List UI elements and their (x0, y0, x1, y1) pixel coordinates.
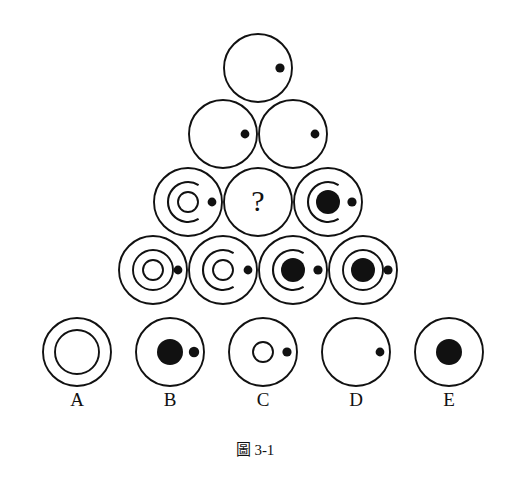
matrix-cell-r4c3-satellite-dot (313, 265, 322, 274)
matrix-cell-r3c1-satellite-dot (208, 198, 217, 207)
matrix-cell-r4c2[interactable] (189, 236, 257, 304)
matrix-cell-r3c2[interactable]: ? (224, 168, 292, 236)
matrix-cell-r3c3-satellite-dot (347, 197, 356, 206)
question-mark[interactable]: ? (251, 184, 264, 217)
option-label-d: D (349, 389, 363, 410)
option-b[interactable]: B (136, 318, 204, 410)
matrix-row-2 (189, 100, 327, 168)
matrix-cell-r4c4[interactable] (329, 236, 397, 304)
option-c[interactable]: C (229, 318, 297, 410)
matrix-cell-r3c1[interactable] (154, 168, 222, 236)
matrix-cell-r4c1[interactable] (119, 236, 187, 304)
option-d-shape-satellite-dot (376, 348, 385, 357)
answer-options: ABCDE (43, 318, 483, 410)
matrix-cell-r3c3-solid-nucleus (316, 190, 340, 214)
matrix-cell-r4c2-hollow-nucleus (213, 260, 233, 280)
matrix-row-1 (224, 34, 292, 102)
matrix-cell-r4c1-satellite-dot (174, 266, 183, 275)
matrix-cell-r4c2-satellite-dot (244, 266, 253, 275)
matrix-cell-r1c1[interactable] (224, 34, 292, 102)
option-c-shape-satellite-dot (282, 347, 291, 356)
matrix-cell-r4c4-satellite-dot (383, 265, 392, 274)
option-label-b: B (164, 389, 177, 410)
option-label-c: C (257, 389, 270, 410)
option-a-shape[interactable] (43, 318, 111, 386)
matrix-cell-r2c1[interactable] (189, 100, 257, 168)
figure-container: ? ABCDE 圖 3-1 (0, 0, 510, 484)
option-label-a: A (70, 389, 84, 410)
figure-caption: 圖 3-1 (236, 442, 275, 458)
matrix-cell-r4c1-hollow-nucleus (143, 260, 163, 280)
option-e-shape-solid-nucleus (436, 339, 462, 365)
matrix-cell-r3c1-hollow-nucleus (178, 192, 198, 212)
puzzle-figure: ? ABCDE 圖 3-1 (0, 0, 510, 484)
matrix-cell-r4c4-solid-nucleus (351, 258, 375, 282)
option-a[interactable]: A (43, 318, 111, 410)
matrix-cell-r2c1-satellite-dot (241, 130, 250, 139)
option-b-shape-satellite-dot (189, 347, 199, 357)
option-a-shape-outer-circle (43, 318, 111, 386)
matrix-cell-r4c3-solid-nucleus (281, 258, 305, 282)
matrix-cell-r4c3[interactable] (259, 236, 327, 304)
option-d-shape[interactable] (322, 318, 390, 386)
option-c-shape-hollow-nucleus (253, 342, 273, 362)
matrix-cell-r2c2-satellite-dot (311, 130, 320, 139)
matrix-pyramid: ? (119, 34, 397, 304)
option-b-shape[interactable] (136, 318, 204, 386)
option-b-shape-solid-nucleus (157, 339, 183, 365)
matrix-row-4 (119, 236, 397, 304)
matrix-row-3: ? (154, 168, 362, 236)
option-d[interactable]: D (322, 318, 390, 410)
option-e-shape[interactable] (415, 318, 483, 386)
option-e[interactable]: E (415, 318, 483, 410)
option-c-shape[interactable] (229, 318, 297, 386)
matrix-cell-r2c2[interactable] (259, 100, 327, 168)
option-label-e: E (443, 389, 455, 410)
matrix-cell-r1c1-satellite-dot (275, 63, 284, 72)
matrix-cell-r3c3[interactable] (294, 168, 362, 236)
